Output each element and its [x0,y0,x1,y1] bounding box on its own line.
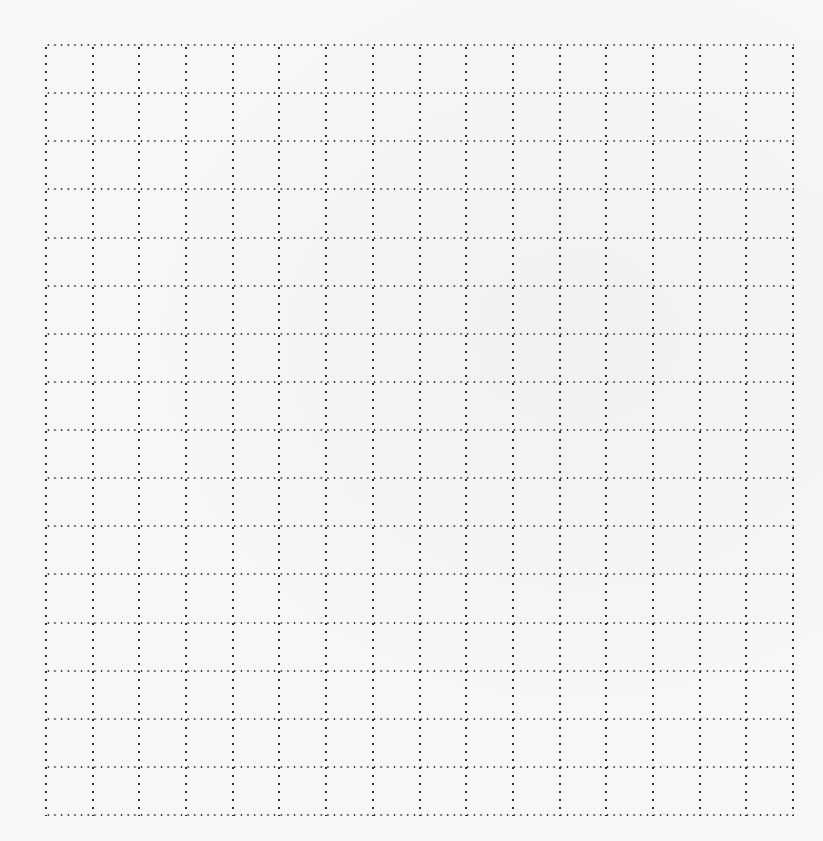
grid-vertical-line [792,44,794,816]
grid-vertical-line [278,44,280,816]
grid-vertical-line [512,44,514,816]
grid-vertical-line [185,44,187,816]
grid-vertical-line [699,44,701,816]
grid-vertical-line [138,44,140,816]
grid-vertical-line [325,44,327,816]
grid-vertical-line [559,44,561,816]
grid-vertical-line [232,44,234,816]
grid-vertical-line [465,44,467,816]
grid-vertical-line [652,44,654,816]
grid-vertical-line [419,44,421,816]
grid-vertical-line [45,44,47,816]
grid-vertical-line [92,44,94,816]
grid-vertical-line [745,44,747,816]
grid-vertical-line [372,44,374,816]
dotted-grid [46,45,793,815]
grid-vertical-line [605,44,607,816]
